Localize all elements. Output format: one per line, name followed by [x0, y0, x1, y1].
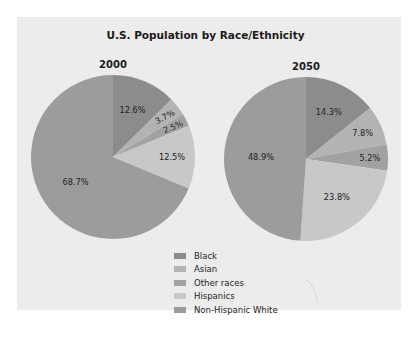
legend-label: Asian [194, 264, 217, 274]
pie-slice-value-label: 48.9% [248, 152, 274, 162]
legend-label: Hispanics [194, 291, 235, 301]
scratch-mark [303, 277, 323, 307]
legend-item-non-hispanic-white: Non-Hispanic White [174, 303, 278, 317]
pie-slice-value-label: 12.6% [120, 105, 146, 115]
legend-label: Other races [194, 278, 244, 288]
pie-slice-value-label: 14.3% [316, 107, 342, 117]
legend-item-other-races: Other races [174, 276, 278, 290]
legend: Black Asian Other races Hispanics Non-Hi… [174, 249, 278, 317]
legend-swatch [174, 307, 186, 313]
pie-slice-value-label: 5.2% [360, 153, 381, 163]
legend-item-black: Black [174, 249, 278, 263]
legend-swatch [174, 253, 186, 259]
pie-2050: 14.3%7.8%5.2%23.8%48.9% [224, 77, 388, 241]
legend-swatch [174, 266, 186, 272]
legend-item-hispanics: Hispanics [174, 290, 278, 304]
pie-slice-value-label: 68.7% [62, 177, 88, 187]
legend-label: Black [194, 251, 217, 261]
legend-swatch [174, 293, 186, 299]
pie-slice-value-label: 23.8% [324, 192, 350, 202]
pie-slice-value-label: 7.8% [352, 128, 373, 138]
legend-item-asian: Asian [174, 263, 278, 277]
legend-swatch [174, 280, 186, 286]
pie-slice-value-label: 12.5% [159, 152, 185, 162]
pie-2000: 12.6%3.7%2.5%12.5%68.7% [31, 75, 195, 239]
legend-label: Non-Hispanic White [194, 305, 278, 315]
